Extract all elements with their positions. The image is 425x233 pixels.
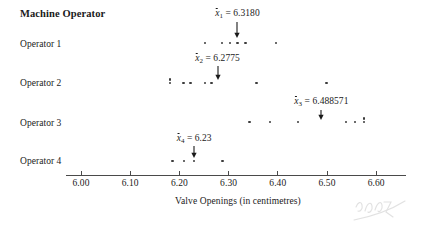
data-point: [169, 78, 172, 81]
x-bar-subscript: 3: [299, 100, 303, 108]
data-point: [189, 82, 192, 85]
x-axis-tick: [376, 171, 377, 175]
mean-value: 6.488571: [312, 96, 348, 106]
data-point: [275, 42, 278, 45]
mean-arrow-operator-1: [234, 22, 241, 38]
data-point: [244, 42, 247, 45]
data-point: [363, 121, 366, 124]
mean-label-operator-3: x3 = 6.488571: [294, 96, 348, 106]
data-point: [363, 117, 366, 120]
data-point: [229, 42, 232, 45]
mean-arrow-operator-4: [191, 146, 198, 158]
x-bar-subscript: 1: [219, 12, 223, 20]
x-axis-tick-label: 6.30: [220, 178, 237, 188]
x-axis-tick: [130, 171, 131, 175]
data-point: [183, 160, 186, 163]
data-point: [354, 121, 357, 124]
data-point: [269, 121, 272, 124]
mean-value: 6.3180: [233, 8, 259, 18]
x-axis-tick: [228, 171, 229, 175]
data-point: [345, 121, 348, 124]
equals-sign: =: [223, 8, 233, 18]
data-point: [325, 82, 328, 85]
data-point: [255, 82, 258, 85]
data-point: [182, 82, 185, 85]
data-point: [297, 121, 300, 124]
data-point: [169, 82, 172, 85]
x-axis-tick: [277, 171, 278, 175]
data-point: [210, 82, 213, 85]
data-point: [193, 160, 196, 163]
x-bar-subscript: 2: [200, 57, 204, 65]
x-axis-tick-label: 6.10: [122, 178, 139, 188]
x-axis-tick-label: 6.60: [368, 178, 385, 188]
equals-sign: =: [185, 133, 195, 143]
x-bar-subscript: 4: [181, 137, 185, 145]
x-axis-tick-label: 6.50: [318, 178, 335, 188]
x-axis-tick-label: 6.20: [171, 178, 188, 188]
mean-value: 6.23: [195, 133, 212, 143]
x-axis-tick: [81, 171, 82, 175]
data-point: [236, 42, 239, 45]
mean-value: 6.2775: [213, 53, 239, 63]
data-point: [221, 160, 224, 163]
x-axis-tick-label: 6.40: [269, 178, 286, 188]
equals-sign: =: [203, 53, 213, 63]
x-axis-tick-label: 6.00: [72, 178, 89, 188]
mean-label-operator-1: x1 = 6.3180: [215, 8, 260, 18]
data-point: [221, 42, 224, 45]
data-point: [248, 121, 251, 124]
mean-label-operator-4: x4 = 6.23: [177, 133, 212, 143]
x-axis-tick: [179, 171, 180, 175]
x-axis-title: Valve Openings (in centimetres): [175, 196, 301, 206]
x-axis-tick: [327, 171, 328, 175]
x-axis-line: [66, 175, 405, 176]
mean-label-operator-2: x2 = 6.2775: [195, 53, 240, 63]
mean-arrow-operator-2: [214, 66, 221, 80]
data-point: [204, 42, 207, 45]
mean-arrow-operator-3: [318, 110, 325, 120]
data-point: [204, 82, 207, 85]
dot-plot-figure: Machine Operator Operator 1 Operator 2 O…: [0, 0, 425, 233]
data-point: [171, 160, 174, 163]
equals-sign: =: [302, 96, 312, 106]
